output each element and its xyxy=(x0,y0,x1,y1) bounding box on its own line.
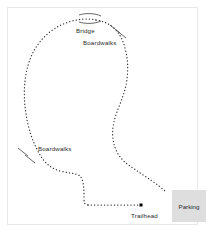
boardwalk-tick-2 xyxy=(116,30,126,38)
bridge-icon xyxy=(79,14,101,24)
bridge-arc-lower xyxy=(79,21,101,23)
parking-area: Parking xyxy=(172,190,206,222)
bridge-arc-upper xyxy=(79,14,101,16)
map-label-bridge: Bridge xyxy=(76,27,95,35)
boardwalk-tick-3 xyxy=(18,148,28,156)
map-label-boardwalks-left: Boardwalks xyxy=(38,145,71,153)
parking-label: Parking xyxy=(179,203,200,210)
boardwalk-tick-4 xyxy=(25,155,35,163)
trail-map-container: BridgeBoardwalksBoardwalksTrailhead Park… xyxy=(0,0,207,239)
trailhead-marker-icon xyxy=(140,204,143,207)
map-label-trailhead: Trailhead xyxy=(131,212,158,220)
map-label-boardwalks-top: Boardwalks xyxy=(83,39,116,47)
